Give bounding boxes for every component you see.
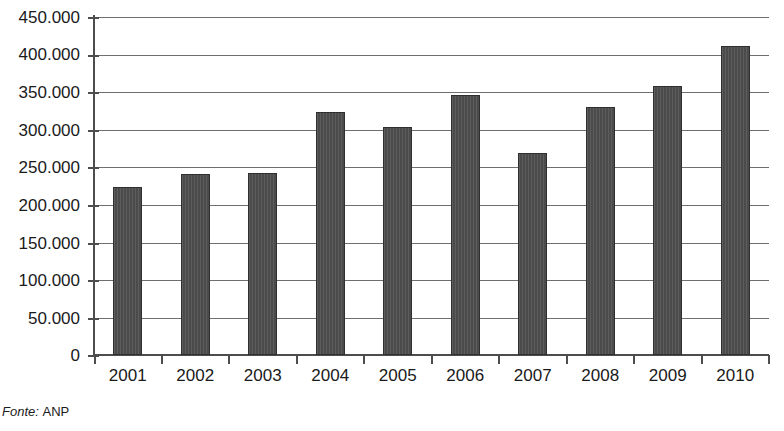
bar-2006 [451, 95, 480, 355]
bar-chart-figure: 450.000 400.000 350.000 300.000 250.000 … [0, 0, 784, 431]
bar-2009 [653, 86, 682, 355]
source-note-label: Fonte: [2, 404, 39, 419]
bar-2005 [383, 127, 412, 355]
y-axis-tick-label-300000: 300.000 [0, 122, 80, 139]
bar-2003 [248, 173, 277, 355]
y-axis-tick-label-450000: 450.000 [0, 9, 80, 26]
plot-area [94, 17, 769, 355]
source-note: Fonte: ANP [2, 404, 69, 419]
x-tick-mark-2006 [498, 355, 500, 364]
y-tick-mark-400000 [88, 55, 99, 57]
source-note-value: ANP [42, 404, 69, 419]
bar-2002 [181, 174, 210, 355]
gridline-400000 [94, 55, 769, 56]
bar-2004 [316, 112, 345, 355]
bar-2008 [586, 107, 615, 355]
bar-2010 [721, 46, 750, 355]
y-tick-mark-450000 [88, 17, 99, 19]
bar-2007 [518, 153, 547, 355]
y-tick-mark-300000 [88, 130, 99, 132]
y-tick-mark-350000 [88, 92, 99, 94]
gridline-450000 [94, 17, 769, 18]
x-tick-mark-2007 [566, 355, 568, 364]
bar-2001 [113, 187, 142, 355]
x-tick-mark-2004 [363, 355, 365, 364]
x-tick-mark-2010 [768, 355, 770, 364]
y-axis-tick-label-150000: 150.000 [0, 235, 80, 252]
y-tick-mark-50000 [88, 318, 99, 320]
y-tick-mark-250000 [88, 167, 99, 169]
x-tick-mark-origin [94, 355, 96, 364]
y-tick-mark-100000 [88, 280, 99, 282]
y-axis-tick-label-250000: 250.000 [0, 159, 80, 176]
x-tick-mark-2003 [296, 355, 298, 364]
x-tick-mark-2009 [701, 355, 703, 364]
y-axis-tick-label-200000: 200.000 [0, 197, 80, 214]
y-axis-tick-label-400000: 400.000 [0, 46, 80, 63]
x-tick-mark-2005 [431, 355, 433, 364]
y-axis-tick-label-50000: 50.000 [0, 310, 80, 327]
y-axis-tick-label-350000: 350.000 [0, 84, 80, 101]
x-axis-label-2010: 2010 [695, 366, 775, 386]
y-axis-tick-label-100000: 100.000 [0, 272, 80, 289]
y-axis-tick-label-0: 0 [0, 347, 80, 364]
x-tick-mark-2002 [228, 355, 230, 364]
x-tick-mark-2008 [633, 355, 635, 364]
x-tick-mark-2001 [161, 355, 163, 364]
y-tick-mark-150000 [88, 243, 99, 245]
y-tick-mark-200000 [88, 205, 99, 207]
